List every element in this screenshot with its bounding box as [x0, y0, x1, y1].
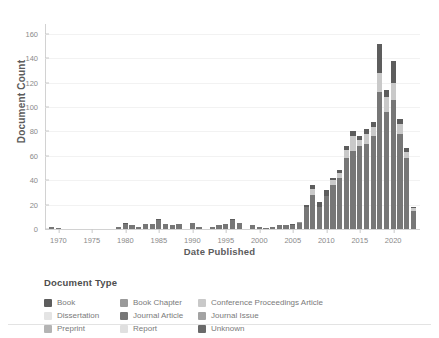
bar-segment[interactable]	[136, 227, 141, 229]
bar[interactable]	[230, 219, 235, 229]
bar[interactable]	[223, 224, 228, 229]
bar[interactable]	[156, 219, 161, 229]
bar-segment[interactable]	[391, 100, 396, 229]
bar[interactable]	[123, 223, 128, 229]
bar[interactable]	[250, 225, 255, 229]
bar-segment[interactable]	[297, 223, 302, 229]
bar-segment[interactable]	[223, 224, 228, 229]
bar-segment[interactable]	[324, 196, 329, 229]
bar-segment[interactable]	[404, 158, 409, 229]
bar[interactable]	[384, 90, 389, 229]
bar-segment[interactable]	[283, 225, 288, 229]
bar-segment[interactable]	[250, 225, 255, 229]
bar-segment[interactable]	[310, 195, 315, 229]
bar-segment[interactable]	[384, 97, 389, 112]
bar-segment[interactable]	[344, 158, 349, 229]
bar-segment[interactable]	[350, 151, 355, 229]
bar[interactable]	[397, 119, 402, 229]
bar[interactable]	[56, 228, 61, 229]
bar[interactable]	[257, 227, 262, 229]
bar-segment[interactable]	[230, 220, 235, 229]
bar-segment[interactable]	[56, 228, 61, 229]
bar-segment[interactable]	[344, 150, 349, 159]
bar[interactable]	[317, 202, 322, 229]
bar-segment[interactable]	[377, 73, 382, 93]
bar[interactable]	[49, 227, 54, 229]
bar[interactable]	[330, 178, 335, 229]
bar[interactable]	[196, 227, 201, 229]
bar[interactable]	[304, 205, 309, 229]
bar[interactable]	[129, 225, 134, 229]
bar[interactable]	[310, 185, 315, 229]
bar-segment[interactable]	[350, 136, 355, 151]
bar[interactable]	[411, 207, 416, 229]
bar[interactable]	[337, 170, 342, 229]
bar-segment[interactable]	[170, 225, 175, 229]
bar[interactable]	[357, 136, 362, 229]
bar[interactable]	[283, 225, 288, 229]
legend-item[interactable]: Book Chapter	[120, 297, 198, 308]
bar-segment[interactable]	[357, 146, 362, 229]
bar[interactable]	[391, 61, 396, 229]
bar[interactable]	[371, 122, 376, 229]
bar[interactable]	[377, 44, 382, 229]
bar-segment[interactable]	[377, 44, 382, 73]
bar[interactable]	[277, 225, 282, 229]
bar-segment[interactable]	[216, 225, 221, 229]
bar-segment[interactable]	[317, 207, 322, 229]
bar[interactable]	[350, 131, 355, 229]
bar[interactable]	[116, 227, 121, 229]
bar-segment[interactable]	[150, 224, 155, 229]
bar-segment[interactable]	[411, 211, 416, 229]
bar-segment[interactable]	[123, 224, 128, 229]
bar-segment[interactable]	[391, 61, 396, 83]
bar-segment[interactable]	[364, 134, 369, 144]
bar[interactable]	[190, 223, 195, 229]
bar[interactable]	[176, 224, 181, 229]
bar[interactable]	[290, 224, 295, 229]
bar-segment[interactable]	[210, 227, 215, 229]
bar-segment[interactable]	[397, 124, 402, 134]
legend-item[interactable]: Journal Article	[120, 310, 198, 321]
bar-segment[interactable]	[116, 227, 121, 229]
bar[interactable]	[324, 190, 329, 229]
bar-segment[interactable]	[49, 227, 54, 229]
bar-segment[interactable]	[304, 207, 309, 229]
bar-segment[interactable]	[330, 185, 335, 229]
bar-segment[interactable]	[371, 136, 376, 229]
bar-segment[interactable]	[270, 227, 275, 229]
bar-segment[interactable]	[257, 227, 262, 229]
bar-segment[interactable]	[377, 92, 382, 229]
bar-segment[interactable]	[237, 223, 242, 229]
bar-segment[interactable]	[364, 144, 369, 229]
bar-segment[interactable]	[190, 223, 195, 229]
bar[interactable]	[143, 224, 148, 229]
bar-segment[interactable]	[129, 225, 134, 229]
bar-segment[interactable]	[196, 227, 201, 229]
legend-item[interactable]: Book	[44, 297, 120, 308]
bar[interactable]	[210, 227, 215, 229]
bar-segment[interactable]	[277, 225, 282, 229]
bar-segment[interactable]	[290, 225, 295, 229]
bar[interactable]	[136, 227, 141, 229]
bar-segment[interactable]	[156, 220, 161, 229]
bar-segment[interactable]	[384, 112, 389, 229]
bar-segment[interactable]	[391, 83, 396, 100]
bar[interactable]	[344, 146, 349, 229]
bar-segment[interactable]	[371, 127, 376, 137]
bar-segment[interactable]	[263, 228, 268, 229]
bar[interactable]	[170, 225, 175, 229]
bar-segment[interactable]	[163, 224, 168, 229]
bar-segment[interactable]	[143, 224, 148, 229]
bar-segment[interactable]	[384, 90, 389, 97]
bar[interactable]	[270, 227, 275, 229]
legend-item[interactable]: Dissertation	[44, 310, 120, 321]
bar[interactable]	[263, 228, 268, 229]
bar[interactable]	[150, 224, 155, 229]
bar[interactable]	[297, 222, 302, 229]
bar[interactable]	[237, 223, 242, 229]
bar[interactable]	[364, 129, 369, 229]
bar-segment[interactable]	[397, 134, 402, 229]
legend-item[interactable]: Conference Proceedings Article	[198, 297, 323, 308]
bar[interactable]	[216, 225, 221, 229]
